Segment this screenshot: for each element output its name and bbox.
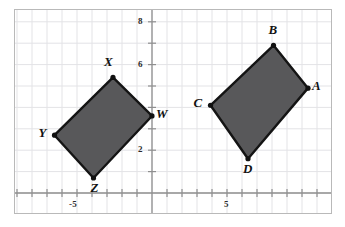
vertex-label-d: D	[243, 161, 252, 177]
vertex-label-y: Y	[39, 125, 47, 141]
x-tick-label-5: 5	[224, 199, 229, 209]
y-tick-label-6: 6	[138, 59, 143, 69]
y-tick-label-2: 2	[138, 144, 143, 154]
x-tick-label-neg5: -5	[69, 199, 77, 209]
shapes-layer	[0, 0, 345, 227]
coordinate-plane-figure: -5 5 2 6 8 W X Y Z A B C D	[0, 0, 345, 227]
vertex-label-b: B	[269, 22, 278, 38]
vertex-label-x: X	[104, 54, 113, 70]
vertex-label-w: W	[156, 106, 168, 122]
y-tick-label-8: 8	[138, 16, 143, 26]
vertex-label-a: A	[312, 78, 321, 94]
vertex-label-z: Z	[91, 180, 99, 196]
vertex-label-c: C	[194, 95, 203, 111]
